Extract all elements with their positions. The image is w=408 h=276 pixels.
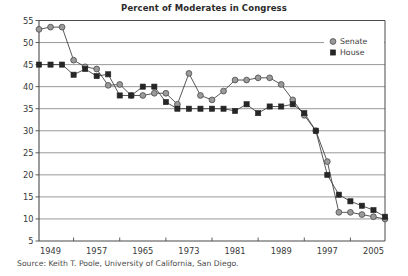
data-point-house: [163, 99, 168, 104]
data-point-senate: [36, 26, 42, 32]
data-point-house: [267, 104, 272, 109]
x-axis-tick-label: 2005: [363, 246, 384, 256]
data-point-house: [209, 106, 214, 111]
legend-label-house: House: [340, 48, 365, 57]
data-point-senate: [186, 71, 192, 77]
data-point-house: [36, 62, 41, 67]
data-point-house: [290, 102, 295, 107]
data-point-senate: [244, 77, 250, 83]
data-point-senate: [140, 93, 146, 99]
data-point-senate: [371, 214, 377, 220]
x-axis-tick-label: 1949: [40, 246, 61, 256]
data-point-house: [279, 104, 284, 109]
data-point-house: [348, 199, 353, 204]
data-point-house: [175, 106, 180, 111]
data-point-house: [198, 106, 203, 111]
data-point-house: [71, 72, 76, 77]
x-axis-tick-label: 1989: [271, 246, 292, 256]
x-axis-tick-label: 1965: [132, 246, 153, 256]
data-point-senate: [221, 88, 227, 94]
data-point-senate: [348, 209, 354, 215]
x-axis-ticks-group: 19491957196519731981198919972005: [40, 238, 384, 257]
y-axis-tick-label: 45: [23, 60, 34, 70]
y-axis-tick-label: 50: [23, 38, 34, 48]
legend-marker-senate: [330, 39, 336, 45]
data-point-senate: [359, 212, 365, 218]
data-point-house: [382, 214, 387, 219]
data-point-house: [313, 128, 318, 133]
data-point-house: [152, 84, 157, 89]
data-point-house: [83, 66, 88, 71]
data-point-senate: [117, 82, 123, 88]
data-point-senate: [94, 66, 100, 72]
y-axis-tick-label: 15: [23, 192, 34, 202]
data-point-senate: [163, 90, 169, 96]
y-axis-ticks-group: 510152025303540455055: [23, 16, 39, 247]
x-axis-tick-label: 1957: [86, 246, 107, 256]
line-chart-plot: 510152025303540455055 194919571965197319…: [0, 0, 408, 276]
data-point-senate: [105, 82, 111, 88]
legend-label-senate: Senate: [340, 37, 368, 46]
data-point-senate: [59, 24, 65, 30]
data-point-house: [221, 106, 226, 111]
y-axis-tick-label: 5: [28, 236, 33, 246]
data-point-house: [106, 72, 111, 77]
x-axis-tick-label: 1981: [225, 246, 246, 256]
legend-marker-house: [330, 50, 335, 55]
data-point-senate: [48, 24, 54, 30]
data-point-house: [117, 93, 122, 98]
data-point-house: [244, 102, 249, 107]
data-point-house: [359, 203, 364, 208]
data-point-senate: [151, 90, 157, 96]
data-point-senate: [336, 209, 342, 215]
data-point-house: [94, 73, 99, 78]
y-axis-tick-label: 25: [23, 148, 34, 158]
data-point-house: [129, 93, 134, 98]
data-point-house: [48, 62, 53, 67]
y-axis-tick-label: 30: [23, 126, 34, 136]
data-point-house: [302, 111, 307, 116]
data-point-senate: [255, 75, 261, 81]
x-axis-tick-label: 1997: [317, 246, 338, 256]
y-axis-tick-label: 35: [23, 104, 34, 114]
data-point-house: [256, 111, 261, 116]
data-point-senate: [267, 75, 273, 81]
data-point-senate: [232, 77, 238, 83]
data-point-senate: [278, 82, 284, 88]
data-point-house: [325, 172, 330, 177]
data-point-house: [232, 108, 237, 113]
series-line-house: [39, 65, 385, 217]
source-note: Source: Keith T. Poole, University of Ca…: [17, 259, 239, 268]
y-axis-tick-label: 20: [23, 170, 34, 180]
data-point-house: [336, 192, 341, 197]
data-point-senate: [324, 159, 330, 165]
y-axis-tick-label: 10: [23, 214, 34, 224]
chart-figure: Percent of Moderates in Congress 5101520…: [0, 0, 408, 276]
y-axis-tick-label: 55: [23, 16, 34, 26]
data-point-senate: [71, 57, 77, 63]
x-axis-tick-label: 1973: [178, 246, 199, 256]
data-point-house: [140, 84, 145, 89]
data-point-house: [59, 62, 64, 67]
y-axis-tick-label: 40: [23, 82, 34, 92]
data-point-senate: [198, 93, 204, 99]
data-point-house: [371, 208, 376, 213]
gridlines-group: [39, 43, 385, 219]
data-point-senate: [209, 97, 215, 103]
data-point-house: [186, 106, 191, 111]
chart-legend: SenateHouse: [324, 34, 384, 58]
